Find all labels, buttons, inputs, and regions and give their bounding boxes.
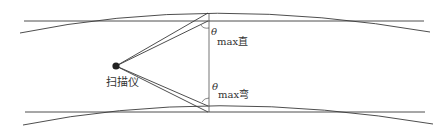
bottom-curved-edge [23,106,433,125]
theta-straight-subscript: max直 [217,35,248,47]
top-curved-edge [20,13,430,33]
scanner-label: 扫描仪 [106,75,139,89]
angle-arc-curved [202,98,209,102]
scanner-dot [112,62,119,69]
scanner-angle-diagram: 扫描仪 θ max直 θ max弯 [0,0,446,137]
angle-arc-straight [201,25,209,28]
ray-to-bottom-straight [116,66,208,112]
theta-curved-subscript: max弯 [218,88,249,100]
ray-to-top-straight [116,21,208,66]
